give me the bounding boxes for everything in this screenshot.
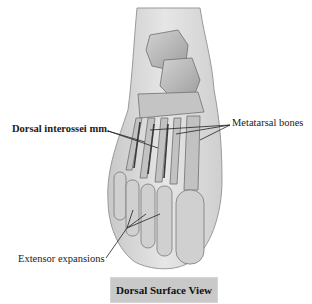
label-dorsal-interossei: Dorsal interossei mm.	[12, 123, 110, 135]
label-extensor-expansions: Extensor expansions	[18, 253, 105, 265]
label-metatarsal-bones: Metatarsal bones	[232, 117, 303, 129]
figure-caption: Dorsal Surface View	[110, 277, 218, 303]
